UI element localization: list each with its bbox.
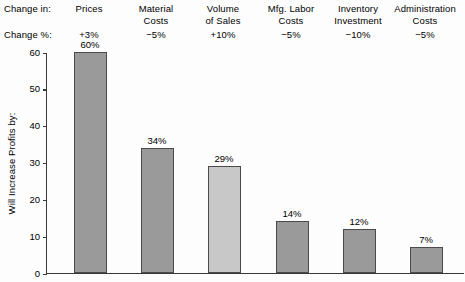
header-category-label: Administration Costs bbox=[382, 3, 465, 26]
bar-value-label-3: 29% bbox=[194, 153, 254, 164]
bar-value-label-2: 34% bbox=[127, 135, 187, 146]
bar-value-label-6: 7% bbox=[396, 234, 456, 245]
y-axis-tick-label: 20 bbox=[29, 194, 40, 206]
y-axis-tick-label: 40 bbox=[29, 120, 40, 132]
bar-value-label-5: 12% bbox=[329, 216, 389, 227]
y-axis-tick-mark bbox=[43, 126, 47, 127]
y-axis-tick-mark bbox=[43, 237, 47, 238]
y-axis-tick-label: 10 bbox=[29, 231, 40, 243]
y-axis-tick-label: 50 bbox=[29, 83, 40, 95]
y-axis-tick-label: 60 bbox=[29, 47, 40, 59]
y-axis-tick-mark bbox=[43, 53, 47, 54]
y-axis-tick-label: 30 bbox=[29, 157, 40, 169]
bar-3 bbox=[208, 166, 241, 273]
header-change-pct-6: −5% bbox=[382, 29, 465, 40]
header-category-6: Administration Costs bbox=[382, 3, 465, 26]
bar-4 bbox=[276, 221, 309, 273]
bar-5 bbox=[343, 229, 376, 273]
header-row-label-change-in: Change in: bbox=[4, 3, 51, 14]
bar-2 bbox=[141, 148, 174, 273]
y-axis-title: Will Increase Profits by: bbox=[5, 53, 19, 274]
bar-value-label-1: 60% bbox=[60, 39, 120, 50]
bar-1 bbox=[74, 52, 107, 273]
plot-area: 6050403020100 60%34%29%14%12%7% bbox=[46, 53, 464, 274]
y-axis-tick-mark bbox=[43, 163, 47, 164]
chart-figure: Change in: Change %: Prices+3%Material C… bbox=[0, 0, 465, 282]
y-axis-tick-label: 0 bbox=[35, 268, 40, 280]
bar-6 bbox=[410, 247, 443, 273]
y-axis-tick-mark bbox=[43, 274, 47, 275]
y-axis-tick-mark bbox=[43, 89, 47, 90]
header-row-label-change-pct: Change %: bbox=[4, 29, 52, 40]
header-table: Change in: Change %: Prices+3%Material C… bbox=[0, 0, 465, 44]
y-axis-tick-mark bbox=[43, 200, 47, 201]
bar-value-label-4: 14% bbox=[262, 208, 322, 219]
